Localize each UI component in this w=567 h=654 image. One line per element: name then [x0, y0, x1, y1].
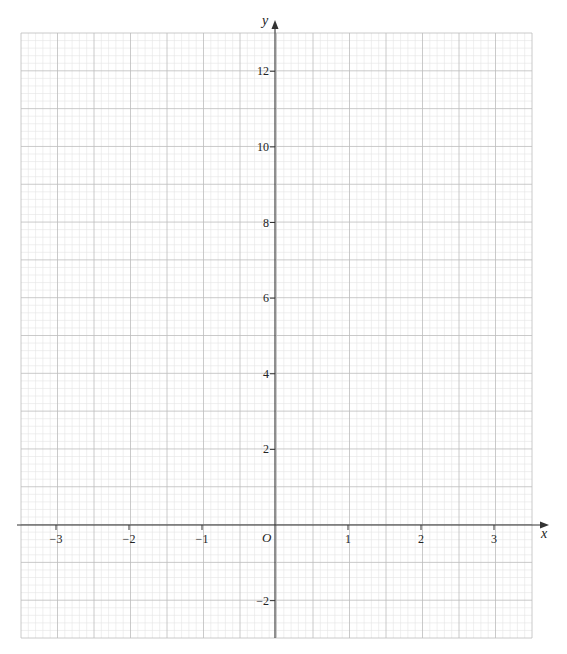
- y-tick-label: 10: [257, 140, 269, 154]
- y-axis-label: y: [260, 13, 269, 28]
- x-tick-label: 1: [345, 532, 351, 546]
- y-tick-label: 6: [263, 291, 269, 305]
- x-tick-label: −1: [196, 532, 209, 546]
- x-tick-label: −2: [123, 532, 136, 546]
- y-tick-label: −2: [256, 594, 269, 608]
- x-axis-label: x: [540, 526, 548, 541]
- y-tick-label: 2: [263, 442, 269, 456]
- origin-label: O: [262, 530, 272, 545]
- x-tick-label: −3: [50, 532, 63, 546]
- x-tick-label: 2: [418, 532, 424, 546]
- graph-paper-chart: −3−2−1123−224681012 x y O: [0, 0, 567, 654]
- y-axis-arrow-icon: [272, 20, 279, 29]
- y-tick-label: 4: [263, 367, 269, 381]
- x-tick-label: 3: [491, 532, 497, 546]
- axes: [17, 20, 549, 638]
- y-tick-label: 8: [263, 216, 269, 230]
- y-tick-label: 12: [257, 64, 269, 78]
